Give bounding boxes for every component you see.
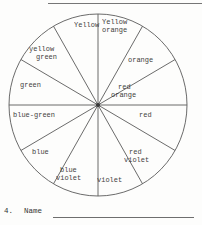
question-number: 4. xyxy=(4,207,13,215)
worksheet-footer: 4. Name xyxy=(0,203,202,225)
worksheet-page: Yellow Yelloworange orange redorange red… xyxy=(0,0,202,225)
wheel-label-red: red xyxy=(139,111,152,119)
wheel-label-red-orange: redorange xyxy=(118,83,136,99)
wheel-label-yellow-orange-line2: orange xyxy=(102,26,127,34)
wheel-label-orange-line1: orange xyxy=(128,56,153,64)
wheel-label-green-line1: green xyxy=(20,81,41,89)
wheel-label-blue-violet-line1: blue xyxy=(60,166,77,174)
wheel-label-yellow-green: yellowgreen xyxy=(29,45,57,61)
wheel-label-blue-line1: blue xyxy=(32,148,49,156)
wheel-label-red-violet-line1: red xyxy=(129,148,142,156)
wheel-label-red-orange-line2: orange xyxy=(111,91,136,99)
color-wheel-diagram: Yellow Yelloworange orange redorange red… xyxy=(0,0,202,205)
color-wheel-svg xyxy=(0,0,202,205)
name-label: Name xyxy=(24,207,42,215)
name-answer-rule[interactable] xyxy=(53,217,194,218)
wheel-label-yellow-green-line2: green xyxy=(29,53,57,61)
wheel-label-blue-violet: blueviolet xyxy=(60,166,81,182)
wheel-label-violet: violet xyxy=(97,176,122,184)
wheel-label-violet-line1: violet xyxy=(97,176,122,184)
wheel-center-hub xyxy=(96,103,100,107)
wheel-label-red-orange-line1: red xyxy=(118,83,131,91)
wheel-label-orange: orange xyxy=(128,56,153,64)
wheel-label-yellow-green-line1: yellow xyxy=(29,45,54,53)
wheel-label-blue-violet-line2: violet xyxy=(56,174,81,182)
wheel-label-yellow-orange: Yelloworange xyxy=(102,18,127,34)
wheel-label-yellow: Yellow xyxy=(74,21,99,29)
wheel-label-yellow-orange-line1: Yellow xyxy=(102,18,127,26)
wheel-label-red-violet-line2: violet xyxy=(124,156,149,164)
wheel-label-blue-green-line1: blue-green xyxy=(13,111,55,119)
wheel-label-blue: blue xyxy=(32,148,49,156)
wheel-label-yellow-line1: Yellow xyxy=(74,21,99,29)
wheel-label-blue-green: blue-green xyxy=(13,111,55,119)
wheel-label-green: green xyxy=(20,81,41,89)
wheel-label-red-line1: red xyxy=(139,111,152,119)
wheel-label-red-violet: redviolet xyxy=(129,148,149,164)
